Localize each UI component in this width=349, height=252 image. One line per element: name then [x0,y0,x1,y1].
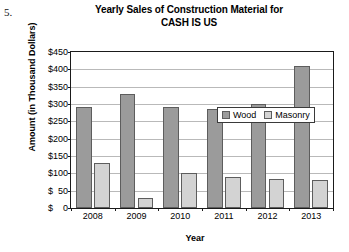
y-tick-mark [68,156,71,157]
x-tick-label-2013: 2013 [289,211,333,221]
y-tick-mark [68,121,71,122]
y-tick-mark [68,52,71,53]
chart-title: Yearly Sales of Construction Material fo… [44,4,334,29]
chart-legend: Wood Masonry [217,107,315,123]
legend-entry-masonry: Masonry [264,110,310,120]
bar-wood-2011 [207,109,223,208]
bar-wood-2013 [294,66,310,208]
y-tick-label: $250 [22,117,68,126]
bar-masonry-2012 [269,179,285,208]
legend-swatch-wood-icon [222,111,230,119]
y-tick-label: $200 [22,135,68,144]
bar-masonry-2009 [138,198,154,208]
x-tick-label-2008: 2008 [71,211,115,221]
x-tick-label-2010: 2010 [158,211,202,221]
y-tick-mark [68,191,71,192]
chart-figure: 5. Yearly Sales of Construction Material… [0,0,349,252]
y-tick-mark [68,69,71,70]
y-tick-label: $100 [22,169,68,178]
legend-label-masonry: Masonry [275,110,310,120]
problem-number: 5. [4,6,12,18]
y-tick-label: $300 [22,100,68,109]
bar-wood-2008 [76,107,92,208]
x-tick-label-2011: 2011 [202,211,246,221]
bar-masonry-2013 [312,180,328,208]
chart-title-line-2: CASH IS US [44,17,334,30]
bar-wood-2010 [163,107,179,208]
y-tick-label: $150 [22,152,68,161]
bar-masonry-2010 [181,173,197,208]
y-tick-mark [68,87,71,88]
bar-wood-2009 [120,94,136,208]
legend-swatch-masonry-icon [264,111,272,119]
x-tick-label-2012: 2012 [246,211,290,221]
x-axis-title: Year [70,233,320,243]
legend-entry-wood: Wood [222,110,256,120]
x-tick-mark [333,208,334,211]
x-tick-label-2009: 2009 [115,211,159,221]
y-tick-label: $400 [22,65,68,74]
y-tick-mark [68,104,71,105]
y-tick-mark [68,139,71,140]
legend-label-wood: Wood [233,110,256,120]
y-tick-mark [68,173,71,174]
bar-masonry-2011 [225,177,241,208]
y-tick-label: $450 [22,48,68,57]
plot-area: $450$400$350$300$250$200$150$100$ 50$ 02… [70,51,334,209]
chart-title-line-1: Yearly Sales of Construction Material fo… [44,4,334,17]
y-tick-label: $350 [22,83,68,92]
bar-masonry-2008 [94,163,110,208]
y-tick-label: $ 0 [22,204,68,213]
y-tick-label: $ 50 [22,187,68,196]
